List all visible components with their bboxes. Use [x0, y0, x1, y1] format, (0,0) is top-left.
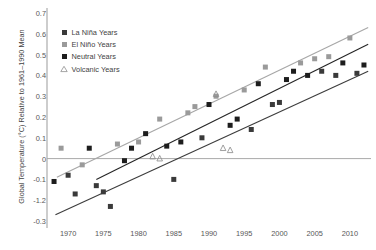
- x-tick-label: 1985: [166, 229, 182, 238]
- legend-square-icon: [60, 28, 68, 36]
- x-tick-label: 2010: [342, 229, 358, 238]
- x-tick-label: 2000: [271, 229, 287, 238]
- legend-item[interactable]: La Niña Years: [60, 26, 120, 38]
- legend-item[interactable]: Neutral Years: [60, 51, 120, 63]
- legend-item[interactable]: Volcanic Years: [60, 63, 120, 75]
- x-tick-label: 1990: [201, 229, 217, 238]
- legend-swatch: [62, 42, 67, 47]
- x-tick-label: 2005: [306, 229, 322, 238]
- x-tick-label: 1980: [130, 229, 146, 238]
- chart-legend: La Niña YearsEl Niño YearsNeutral YearsV…: [60, 26, 120, 76]
- x-axis-tick-labels: 197019751980198519901995200020052010: [0, 0, 376, 250]
- legend-item[interactable]: El Niño Years: [60, 38, 120, 50]
- legend-item-label: Neutral Years: [72, 52, 116, 61]
- legend-item-label: El Niño Years: [72, 40, 116, 49]
- legend-square-icon: [60, 41, 68, 49]
- x-tick-label: 1975: [95, 229, 111, 238]
- legend-swatch: [62, 30, 67, 35]
- legend-triangle-icon: [60, 65, 68, 73]
- legend-item-label: La Niña Years: [72, 28, 118, 37]
- temperature-scatter-chart: Global Temperature (°C) Relative to 1961…: [0, 0, 376, 250]
- legend-swatch: [62, 54, 67, 59]
- x-tick-label: 1970: [60, 229, 76, 238]
- x-tick-label: 1995: [236, 229, 252, 238]
- legend-item-label: Volcanic Years: [72, 65, 120, 74]
- legend-square-icon: [60, 53, 68, 61]
